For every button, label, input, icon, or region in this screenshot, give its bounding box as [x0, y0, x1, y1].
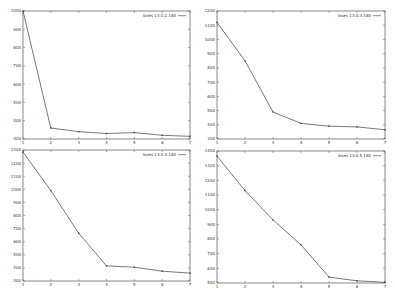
data-point: [216, 22, 217, 23]
y-tick-label: 500: [13, 100, 21, 105]
data-point: [328, 126, 329, 127]
y-tick-label: 500: [207, 280, 215, 285]
data-point: [384, 129, 385, 130]
data-point: [272, 111, 273, 112]
y-tick-label: 700: [13, 63, 21, 68]
data-point: [244, 190, 245, 191]
x-tick-label: 6: [161, 282, 164, 287]
x-tick-label: 3: [272, 284, 275, 289]
x-tick-label: 6: [356, 284, 359, 289]
y-tick-label: 1000: [11, 187, 22, 192]
legend-label: loses 13.0.2.180: [143, 13, 177, 18]
plot-frame: [23, 150, 190, 281]
y-tick-label: 300: [13, 278, 21, 283]
y-tick-label: 400: [13, 118, 21, 123]
y-tick-label: 800: [207, 236, 215, 241]
chart-bottom-left: 3004005006007008009001000110012001300123…: [0, 145, 197, 295]
y-tick-label: 1000: [11, 8, 22, 13]
data-point: [356, 280, 357, 281]
data-point: [78, 232, 79, 233]
y-tick-label: 1200: [205, 178, 216, 183]
data-point: [78, 131, 79, 132]
y-tick-label: 800: [207, 65, 215, 70]
chart-top-right: 3004005006007008009001000110012001234567…: [197, 0, 395, 147]
legend-label: loses 13.0.3.180: [338, 13, 372, 18]
y-tick-label: 900: [13, 200, 21, 205]
y-tick-label: 400: [13, 265, 21, 270]
x-tick-label: 5: [133, 282, 136, 287]
data-point: [189, 272, 190, 273]
chart-bottom-right: 5006007008009001000110012001300140012345…: [197, 145, 395, 295]
x-tick-label: 7: [189, 282, 192, 287]
data-series-line: [23, 152, 190, 273]
data-point: [244, 60, 245, 61]
y-tick-label: 1200: [11, 161, 22, 166]
data-point: [300, 123, 301, 124]
data-point: [384, 282, 385, 283]
y-tick-label: 500: [13, 252, 21, 257]
data-point: [300, 244, 301, 245]
data-series-line: [217, 156, 385, 282]
y-tick-label: 700: [207, 251, 215, 256]
data-point: [216, 155, 217, 156]
x-tick-label: 1: [216, 284, 219, 289]
data-point: [161, 270, 162, 271]
y-tick-label: 300: [13, 136, 21, 141]
y-tick-label: 900: [13, 27, 21, 32]
plot-frame: [217, 151, 385, 283]
y-tick-label: 1100: [205, 192, 216, 197]
x-tick-label: 1: [22, 282, 25, 287]
x-tick-label: 7: [384, 284, 387, 289]
plot-top-right: 3004005006007008009001000110012001234567…: [197, 0, 395, 147]
data-point: [106, 265, 107, 266]
y-tick-label: 1300: [11, 147, 22, 152]
x-tick-label: 2: [244, 284, 247, 289]
data-point: [50, 190, 51, 191]
y-tick-label: 1100: [205, 23, 216, 28]
y-tick-label: 300: [207, 136, 215, 141]
data-series-line: [217, 22, 385, 129]
legend-label: loses 13.0.4.180: [143, 152, 177, 157]
y-tick-label: 600: [13, 82, 21, 87]
data-point: [22, 151, 23, 152]
y-tick-label: 1200: [205, 8, 216, 13]
plot-top-left: 30040050060070080090010001234567loses 13…: [0, 0, 197, 147]
y-tick-label: 600: [207, 266, 215, 271]
data-point: [189, 136, 190, 137]
y-tick-label: 1000: [205, 207, 216, 212]
chart-top-left: 30040050060070080090010001234567loses 13…: [0, 0, 197, 147]
plot-bottom-left: 3004005006007008009001000110012001300123…: [0, 145, 197, 295]
y-tick-label: 500: [207, 108, 215, 113]
y-tick-label: 1000: [205, 37, 216, 42]
plot-frame: [23, 11, 190, 139]
legend-label: loses 13.0.5.180: [338, 153, 372, 158]
y-tick-label: 900: [207, 51, 215, 56]
y-tick-label: 1100: [11, 174, 22, 179]
y-tick-label: 1300: [205, 163, 216, 168]
y-tick-label: 600: [207, 94, 215, 99]
x-tick-label: 5: [328, 284, 331, 289]
x-tick-label: 4: [300, 284, 303, 289]
data-point: [134, 132, 135, 133]
data-point: [272, 219, 273, 220]
y-tick-label: 400: [207, 122, 215, 127]
y-tick-label: 700: [207, 80, 215, 85]
x-tick-label: 4: [105, 282, 108, 287]
data-point: [356, 126, 357, 127]
data-point: [134, 267, 135, 268]
data-point: [22, 10, 23, 11]
x-tick-label: 2: [50, 282, 53, 287]
y-tick-label: 900: [207, 222, 215, 227]
y-tick-label: 1400: [205, 148, 216, 153]
data-point: [161, 135, 162, 136]
plot-bottom-right: 5006007008009001000110012001300140012345…: [197, 145, 395, 295]
y-tick-label: 800: [13, 45, 21, 50]
data-series-line: [23, 11, 190, 136]
y-tick-label: 800: [13, 213, 21, 218]
plot-frame: [217, 11, 385, 139]
y-tick-label: 600: [13, 239, 21, 244]
data-point: [106, 133, 107, 134]
y-tick-label: 700: [13, 226, 21, 231]
data-point: [328, 276, 329, 277]
data-point: [50, 127, 51, 128]
